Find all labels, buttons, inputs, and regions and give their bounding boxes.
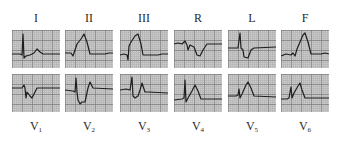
ecg-grid xyxy=(12,30,60,68)
lead-label-ii: II xyxy=(69,12,109,24)
lead-label-subscript: 1 xyxy=(39,126,43,134)
ecg-grid xyxy=(228,74,276,112)
ecg-grid xyxy=(281,74,329,112)
ecg-panel-v1 xyxy=(12,74,60,112)
ecg-panel-i xyxy=(12,30,60,68)
lead-label-text: II xyxy=(85,11,93,25)
ecg-panel-iii xyxy=(120,30,168,68)
ecg-panel-r xyxy=(174,30,222,68)
lead-label-subscript: 3 xyxy=(147,126,151,134)
ecg-grid xyxy=(228,30,276,68)
ecg-panel-ii xyxy=(65,30,113,68)
lead-label-v5: V5 xyxy=(232,120,272,136)
ecg-grid xyxy=(65,74,113,112)
lead-label-iii: III xyxy=(124,12,164,24)
ecg-grid xyxy=(174,74,222,112)
lead-label-r: R xyxy=(178,12,218,24)
lead-label-f: F xyxy=(285,12,325,24)
lead-label-l: L xyxy=(232,12,272,24)
ecg-grid xyxy=(65,30,113,68)
ecg-grid xyxy=(120,74,168,112)
lead-label-i: I xyxy=(16,12,56,24)
lead-label-text: V xyxy=(83,119,92,133)
lead-label-text: V xyxy=(30,119,39,133)
lead-label-subscript: 5 xyxy=(255,126,259,134)
lead-label-text: V xyxy=(138,119,147,133)
ecg-grid xyxy=(12,74,60,112)
lead-label-v2: V2 xyxy=(69,120,109,136)
ecg-panel-v4 xyxy=(174,74,222,112)
ecg-grid xyxy=(120,30,168,68)
ecg-panel-v6 xyxy=(281,74,329,112)
ecg-panel-v3 xyxy=(120,74,168,112)
ecg-panel-v5 xyxy=(228,74,276,112)
ecg-panel-f xyxy=(281,30,329,68)
ecg-grid xyxy=(174,30,222,68)
lead-label-text: V xyxy=(192,119,201,133)
lead-label-v3: V3 xyxy=(124,120,164,136)
lead-label-text: V xyxy=(299,119,308,133)
ecg-panel-v2 xyxy=(65,74,113,112)
lead-label-text: R xyxy=(194,11,202,25)
lead-label-subscript: 6 xyxy=(308,126,312,134)
ecg-panel-l xyxy=(228,30,276,68)
ecg-grid xyxy=(281,30,329,68)
lead-label-text: V xyxy=(246,119,255,133)
lead-label-subscript: 2 xyxy=(92,126,96,134)
lead-label-text: I xyxy=(34,11,38,25)
lead-label-subscript: 4 xyxy=(201,126,205,134)
lead-label-text: L xyxy=(248,11,255,25)
lead-label-text: III xyxy=(138,11,150,25)
lead-label-v1: V1 xyxy=(16,120,56,136)
lead-label-text: F xyxy=(302,11,309,25)
lead-label-v4: V4 xyxy=(178,120,218,136)
lead-label-v6: V6 xyxy=(285,120,325,136)
